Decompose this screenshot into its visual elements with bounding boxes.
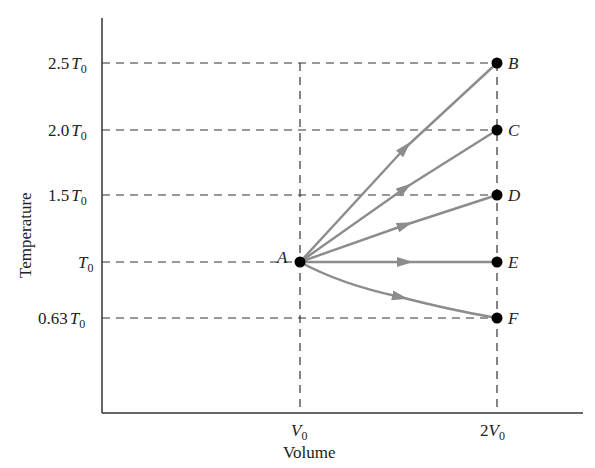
svg-text:1.5T0: 1.5T0 [48,186,87,208]
point-b [492,58,503,69]
label-e: E [507,253,519,272]
label-f: F [507,309,519,328]
state-points [295,58,503,324]
point-a [295,257,306,268]
label-d: D [507,186,521,205]
x-axis-title: Volume [283,443,336,462]
svg-text:2.0T0: 2.0T0 [48,121,87,143]
vertical-guides [300,63,497,413]
point-d [492,190,503,201]
point-f [492,313,503,324]
point-c [492,125,503,136]
path-a-to-f [300,262,400,297]
path-a-to-b [300,148,405,262]
svg-text:2V0: 2V0 [480,421,505,443]
svg-text:2.5T0: 2.5T0 [48,54,87,76]
y-tick-labels: 2.5T0 2.0T0 1.5T0 T0 0.63T0 [38,54,93,331]
x-tick-labels: V0 2V0 [291,421,505,443]
point-e [492,257,503,268]
label-a: A [276,248,288,267]
svg-text:T0: T0 [78,253,93,275]
label-c: C [508,121,520,140]
y-axis-title: Temperature [16,192,35,278]
svg-text:0.63T0: 0.63T0 [38,309,85,331]
svg-text:V0: V0 [291,421,307,443]
pv-diagram: A B C D E F 2.5T0 2.0T0 1.5T0 T0 0.63T0 … [0,0,595,468]
path-a-to-c [300,188,405,262]
label-b: B [508,54,519,73]
process-paths [300,63,497,318]
